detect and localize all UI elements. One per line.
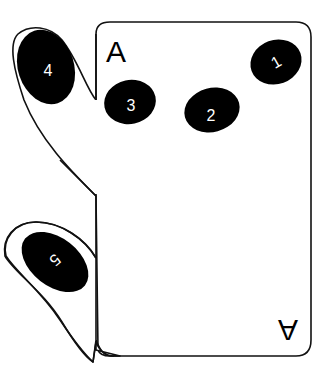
edge-mask xyxy=(95,100,98,194)
card-grip-diagram: A A 4 3 2 1 5 xyxy=(0,0,331,381)
finger-pad-2-label: 2 xyxy=(207,107,216,124)
card-rank-bottom: A xyxy=(278,314,298,347)
finger-pad-3-label: 3 xyxy=(127,97,136,114)
finger-pad-4-label: 4 xyxy=(44,62,53,79)
card-rank-top: A xyxy=(106,35,126,68)
